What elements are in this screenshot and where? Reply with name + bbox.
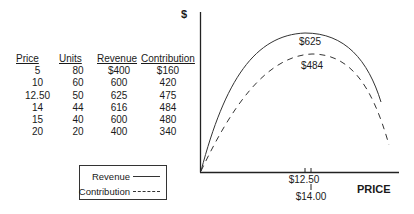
revenue-peak-price-label: $12.50 [289,174,320,185]
x-axis-label: PRICE [357,183,391,195]
y-axis-label: $ [181,8,187,20]
contribution-peak-label: $484 [301,60,323,71]
contribution-curve [201,54,389,171]
price-chart [0,0,414,214]
revenue-peak-label: $625 [299,36,321,47]
contribution-peak-price-label: $14.00 [296,191,327,202]
revenue-curve [201,33,381,171]
